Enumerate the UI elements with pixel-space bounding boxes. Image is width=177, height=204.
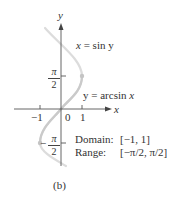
fraction-denominator: 2 xyxy=(48,79,60,90)
arcsin-label-prefix: y = arcsin xyxy=(83,89,129,101)
x-axis-label: x xyxy=(114,104,119,115)
sin-curve-label: x = sin y xyxy=(76,40,114,51)
graph-canvas xyxy=(0,0,177,204)
sin-label-rest: = sin y xyxy=(81,39,114,51)
y-tick-label-neg-pi-over-2: π 2 xyxy=(48,134,60,157)
y-axis-arrow-icon xyxy=(59,23,64,30)
figure-caption: (b) xyxy=(53,180,66,191)
fraction-denominator: 2 xyxy=(48,146,60,157)
x-tick-label-1: 1 xyxy=(80,112,86,123)
fraction-numerator: π xyxy=(48,134,60,146)
y-tick-label-neg-sign: − xyxy=(40,138,46,149)
x-axis-arrow-icon xyxy=(105,107,112,112)
fraction-numerator: π xyxy=(48,67,60,79)
arcsin-curve-label: y = arcsin x xyxy=(83,90,134,101)
y-tick-label-pi-over-2: π 2 xyxy=(48,67,60,90)
origin-label: 0 xyxy=(65,112,71,123)
range-label: Range: xyxy=(75,147,106,158)
domain-value: [−1, 1] xyxy=(120,134,150,145)
x-tick-label-neg1: −1 xyxy=(31,112,43,123)
domain-label: Domain: xyxy=(75,134,114,145)
arcsin-graph-figure: y x −1 0 1 π 2 − π 2 x = sin y y = arcsi… xyxy=(0,0,177,204)
arcsin-endpoint-top xyxy=(80,74,84,78)
y-axis-label: y xyxy=(58,10,63,21)
range-value: [−π/2, π/2] xyxy=(120,147,167,158)
arcsin-label-var: x xyxy=(129,89,134,101)
